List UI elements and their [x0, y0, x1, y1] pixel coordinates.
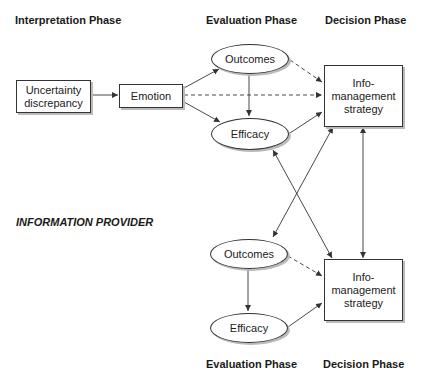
top-strategy-line1: Info- — [331, 77, 395, 90]
edge-topefficacy-bottomstrategy — [273, 150, 332, 258]
top-strategy-line2: management — [331, 90, 395, 103]
edge-emotion-efficacy — [184, 102, 220, 122]
emotion-node: Emotion — [119, 84, 183, 108]
uncertainty-line1: Uncertainty — [24, 84, 83, 97]
bottom-strategy-line2: management — [331, 284, 395, 297]
edge-bottomefficacy-bottomstrategy — [288, 303, 322, 327]
top-info-management-strategy-node: Info- management strategy — [324, 65, 403, 127]
edge-efficacy-strategy — [290, 112, 322, 133]
uncertainty-discrepancy-node: Uncertainty discrepancy — [16, 80, 91, 113]
uncertainty-line2: discrepancy — [24, 97, 83, 110]
top-efficacy-node: Efficacy — [211, 118, 289, 150]
top-strategy-line3: strategy — [331, 103, 395, 116]
edge-bottomoutcomes-bottomstrategy — [288, 256, 322, 276]
edge-topstrategy-bottomoutcomes — [273, 127, 333, 237]
edge-outcomes-strategy — [290, 60, 322, 82]
edge-emotion-outcomes — [184, 69, 219, 88]
bottom-outcomes-node: Outcomes — [210, 239, 288, 269]
bottom-info-management-strategy-node: Info- management strategy — [324, 259, 403, 321]
bottom-strategy-line3: strategy — [331, 297, 395, 310]
bottom-strategy-line1: Info- — [331, 271, 395, 284]
top-outcomes-node: Outcomes — [211, 44, 289, 74]
bottom-efficacy-node: Efficacy — [210, 313, 288, 343]
